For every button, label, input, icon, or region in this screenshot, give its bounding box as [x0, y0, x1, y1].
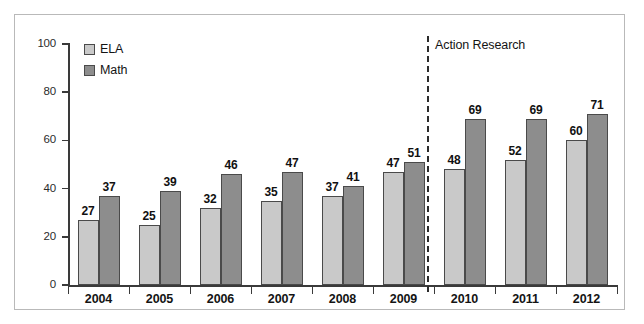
y-axis-tick: [62, 91, 68, 93]
y-axis-tick-label-text: 60: [26, 134, 56, 146]
y-axis-tick-label-text: 0: [26, 279, 56, 291]
x-axis-label-2009: 2009: [373, 292, 434, 306]
bar-ela-2005[interactable]: [139, 225, 160, 285]
bar-group: [383, 44, 425, 285]
bar-ela-2011[interactable]: [505, 160, 526, 285]
chart-legend: ELAMath: [84, 41, 174, 83]
y-axis-tick-label: 80: [26, 86, 56, 98]
y-axis-tick-label: 20: [26, 231, 56, 243]
bar-math-2009[interactable]: [404, 162, 425, 285]
bar-ela-2004[interactable]: [78, 220, 99, 285]
y-axis-tick: [62, 188, 68, 190]
legend-item-math[interactable]: Math: [84, 62, 174, 79]
action-research-divider-line: [427, 36, 429, 292]
bar-group: [566, 44, 608, 285]
y-axis-tick-label-text: 20: [26, 231, 56, 243]
bar-math-2012[interactable]: [587, 114, 608, 285]
x-axis-line: [68, 285, 618, 287]
legend-item-ela[interactable]: ELA: [84, 41, 174, 58]
bar-math-2007[interactable]: [282, 172, 303, 285]
y-axis-tick-label: 100: [26, 38, 56, 50]
y-axis-line: [68, 43, 70, 286]
bar-group: [505, 44, 547, 285]
x-axis-tick: [617, 286, 618, 294]
bar-math-2011[interactable]: [526, 119, 547, 285]
bar-ela-2007[interactable]: [261, 201, 282, 285]
bar-group: [261, 44, 303, 285]
y-axis-tick-label: 0: [26, 279, 56, 291]
x-axis-label-2011: 2011: [495, 292, 556, 306]
y-axis-tick-label-text: 80: [26, 86, 56, 98]
x-axis-label-2012: 2012: [556, 292, 617, 306]
bar-math-2004[interactable]: [99, 196, 120, 285]
y-axis-tick: [62, 236, 68, 238]
bar-ela-2008[interactable]: [322, 196, 343, 285]
bar-ela-2009[interactable]: [383, 172, 404, 285]
bar-math-2005[interactable]: [160, 191, 181, 285]
x-axis-label-2006: 2006: [190, 292, 251, 306]
x-axis-label-2007: 2007: [251, 292, 312, 306]
y-axis-tick-label-text: 100: [26, 38, 56, 50]
x-axis-label-2008: 2008: [312, 292, 373, 306]
y-axis-tick: [62, 43, 68, 45]
bar-group: [322, 44, 364, 285]
legend-swatch-icon: [84, 65, 95, 76]
bar-math-2008[interactable]: [343, 186, 364, 285]
bar-ela-2006[interactable]: [200, 208, 221, 285]
x-axis-label-2010: 2010: [434, 292, 495, 306]
bar-ela-2010[interactable]: [444, 169, 465, 285]
x-axis-tick: [68, 286, 69, 294]
bar-ela-2012[interactable]: [566, 140, 587, 285]
legend-item-label: Math: [100, 64, 127, 77]
y-axis-tick: [62, 140, 68, 142]
bar-math-2006[interactable]: [221, 174, 242, 285]
chart-figure: 020406080100 200420052006200720082009201…: [0, 0, 644, 324]
y-axis-tick-label: 40: [26, 183, 56, 195]
x-axis-label-2005: 2005: [129, 292, 190, 306]
bar-math-2010[interactable]: [465, 119, 486, 285]
legend-swatch-icon: [84, 44, 95, 55]
legend-item-label: ELA: [100, 43, 123, 56]
y-axis-tick-label-text: 40: [26, 183, 56, 195]
bar-group: [444, 44, 486, 285]
x-axis-label-2004: 2004: [68, 292, 129, 306]
bar-group: [200, 44, 242, 285]
y-axis-tick-label: 60: [26, 134, 56, 146]
action-research-label: Action Research: [435, 38, 525, 52]
